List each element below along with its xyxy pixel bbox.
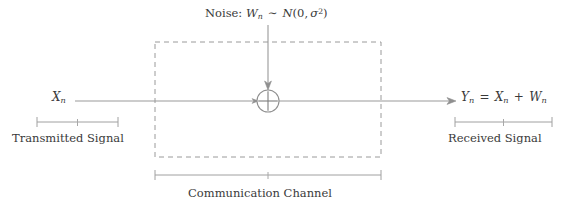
input-signal-symbol: Xn [52, 91, 66, 103]
output-term-signal: Xn [495, 90, 509, 104]
noise-dist-variance: σ2 [310, 6, 323, 20]
transmitted-signal-caption: Transmitted Signal [12, 133, 124, 145]
output-signal-equation: Yn = Xn + Wn [461, 91, 547, 103]
received-signal-caption: Received Signal [448, 133, 542, 145]
output-term-noise: Wn [529, 90, 547, 104]
noise-relation-symbol: ∼ [266, 6, 278, 20]
transmitted-signal-bracket [37, 117, 118, 127]
communication-channel-bracket [155, 170, 381, 180]
output-equals-sign: = [478, 90, 491, 104]
output-plus-sign: + [512, 90, 525, 104]
output-lhs: Yn [461, 90, 474, 104]
noise-dist-close-paren: ) [323, 6, 328, 20]
input-signal-variable: X [52, 90, 61, 104]
diagram-vector-layer [0, 0, 572, 214]
noise-distribution-symbol: N [282, 6, 292, 20]
noise-variable: Wn [246, 6, 263, 20]
received-signal-bracket [455, 117, 552, 127]
block-diagram-figure: Noise: Wn ∼ N(0, σ2) Xn Yn = Xn + Wn Tra… [0, 0, 572, 214]
input-signal-subscript: n [61, 95, 66, 105]
noise-label: Noise: Wn ∼ N(0, σ2) [205, 8, 328, 20]
noise-label-prefix: Noise: [205, 6, 242, 20]
communication-channel-caption: Communication Channel [188, 188, 332, 200]
